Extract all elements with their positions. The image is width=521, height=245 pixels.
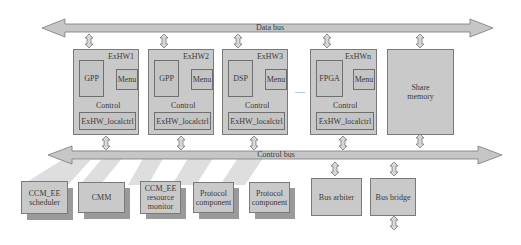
ccm-ee-scheduler-line1: CCM_EE (29, 189, 61, 198)
share-memory-line1: Share (411, 83, 429, 92)
control-bus-label: Control bus (246, 150, 306, 159)
data-bus-link-share-memory (416, 34, 424, 48)
ccm-ee-resource-monitor-line2: resource (147, 193, 174, 202)
exhw2-processor: GPP (154, 60, 179, 97)
ccm-ee-scheduler: CCM_EE scheduler (21, 181, 68, 214)
exhw1-title: ExHW1 (104, 52, 138, 61)
protocol-component-2-line2: component (252, 198, 288, 207)
exhw2-control-label: Control (171, 101, 201, 110)
control-bus-link-exhwn (339, 136, 347, 150)
exhwn-localctrl: ExHW_localctrl (316, 112, 374, 130)
exhw3-memory: Menu (265, 69, 287, 90)
exhw3-module: ExHW3 DSP Menu Control ExHW_localctrl (222, 49, 288, 135)
exhw1-processor: GPP (79, 60, 104, 97)
exhwn-control-label: Control (333, 101, 363, 110)
exhw3-title: ExHW3 (253, 52, 287, 61)
bus-arbiter-label: Bus arbiter (319, 193, 354, 202)
bus-arbiter: Bus arbiter (311, 178, 362, 216)
cmm: CMM (78, 182, 125, 213)
share-memory-line2: memory (407, 92, 434, 101)
protocol-component-1-line1: Protocol (200, 189, 227, 198)
ccm-ee-resource-monitor: CCM_EE resource monitor (140, 181, 181, 214)
ccm-ee-scheduler-line2: scheduler (29, 198, 60, 207)
exhwn-title: ExHWn (341, 52, 375, 61)
share-memory: Share memory (387, 49, 454, 135)
exhw3-localctrl: ExHW_localctrl (228, 112, 285, 130)
control-bus-link-exhw2 (177, 136, 185, 150)
data-bus-label: Data bus (240, 23, 300, 32)
data-bus-link-exhw1 (85, 34, 93, 48)
control-bus-link-share-memory (416, 134, 424, 148)
protocol-component-1-line2: component (196, 198, 232, 207)
exhwn-module: ExHWn FPGA Menu Control ExHW_localctrl (310, 49, 377, 135)
exhw3-processor: DSP (228, 60, 253, 97)
protocol-component-1: Protocol component (193, 182, 234, 213)
protocol-component-2-line1: Protocol (256, 189, 283, 198)
control-bus-link-exhw1 (102, 136, 110, 150)
control-bus-link-bus-bridge (390, 162, 398, 176)
bus-bridge: Bus bridge (370, 178, 416, 216)
ellipsis: ..... (293, 86, 307, 95)
control-bus-link-bus-arbiter (331, 162, 339, 176)
data-bus-link-exhw3 (234, 34, 242, 48)
exhwn-memory: Menu (353, 69, 375, 90)
exhw2-memory: Menu (191, 69, 213, 90)
protocol-component-2: Protocol component (249, 182, 290, 213)
bus-bridge-label: Bus bridge (376, 193, 411, 202)
exhwn-processor: FPGA (316, 60, 343, 97)
exhw3-control-label: Control (245, 101, 275, 110)
exhw1-module: ExHW1 GPP Menu Control ExHW_localctrl (73, 49, 139, 135)
bus-bridge-external-link (390, 216, 398, 230)
ccm-ee-resource-monitor-line1: CCM_EE (145, 184, 177, 193)
exhw2-title: ExHW2 (179, 52, 213, 61)
control-bus-link-exhw3 (250, 136, 258, 150)
exhw1-localctrl: ExHW_localctrl (79, 112, 136, 130)
data-bus-link-exhw2 (160, 34, 168, 48)
exhw1-control-label: Control (96, 101, 126, 110)
exhw1-memory: Menu (116, 69, 138, 90)
exhw2-module: ExHW2 GPP Menu Control ExHW_localctrl (148, 49, 214, 135)
exhw2-localctrl: ExHW_localctrl (154, 112, 211, 130)
data-bus-link-exhwn (323, 34, 331, 48)
ccm-ee-resource-monitor-line3: monitor (148, 202, 173, 211)
cmm-label: CMM (92, 193, 112, 202)
